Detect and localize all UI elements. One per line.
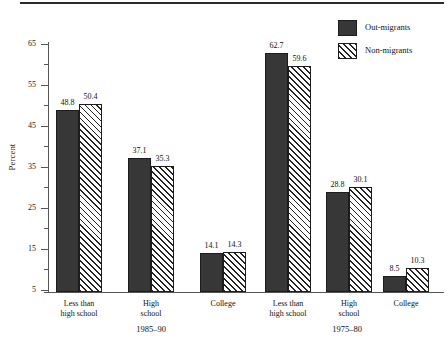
bar [128, 158, 151, 292]
bar-value-label: 50.4 [73, 93, 108, 101]
y-tick-major [41, 167, 48, 168]
chart-figure: 5152535455565 Percent 48.850.437.135.314… [0, 0, 448, 355]
y-tick-major [41, 290, 48, 291]
bar [265, 53, 288, 292]
bar [288, 66, 311, 292]
bar-value-label: 35.3 [145, 155, 180, 163]
category-label: High school [116, 299, 186, 318]
y-tick-label: 65 [10, 40, 36, 48]
category-label: Less than high school [44, 299, 114, 318]
y-tick-major [41, 249, 48, 250]
category-label: Less than high school [253, 299, 323, 318]
legend-item-out-migrants: Out-migrants [338, 18, 446, 41]
bar [79, 104, 102, 292]
legend-label-out-migrants: Out-migrants [365, 22, 410, 32]
y-tick-label: 25 [10, 204, 36, 212]
bar-value-label: 8.5 [377, 265, 412, 273]
y-tick-minor [44, 187, 48, 188]
bar [200, 253, 223, 292]
bar [56, 110, 79, 292]
bar [349, 187, 372, 292]
y-tick-minor [44, 105, 48, 106]
legend-swatch-solid-icon [338, 20, 357, 36]
y-tick-label: 55 [10, 81, 36, 89]
top-horizontal-rule [20, 2, 444, 4]
y-tick-major [41, 126, 48, 127]
y-tick-label: 5 [10, 286, 36, 294]
y-tick-major [41, 208, 48, 209]
bar [151, 166, 174, 292]
y-tick-minor [44, 228, 48, 229]
y-tick-label: 15 [10, 245, 36, 253]
bar [383, 276, 406, 292]
y-tick-minor [44, 146, 48, 147]
chart-legend: Out-migrants Non-migrants [338, 18, 446, 64]
y-axis-title: Percent [7, 127, 17, 187]
bar [223, 252, 246, 292]
y-tick-minor [44, 269, 48, 270]
y-axis-line [48, 42, 49, 292]
x-axis-baseline [44, 292, 444, 293]
y-tick-major [41, 44, 48, 45]
y-tick-minor [44, 64, 48, 65]
legend-item-non-migrants: Non-migrants [338, 41, 446, 64]
bar-value-label: 14.3 [217, 241, 252, 249]
bar-value-label: 62.7 [259, 42, 294, 50]
bar-value-label: 59.6 [282, 55, 317, 63]
legend-swatch-hatch-icon [338, 43, 357, 59]
bar-value-label: 30.1 [343, 176, 378, 184]
period-group-label: 1985–90 [106, 325, 196, 334]
period-group-label: 1975–80 [302, 325, 392, 334]
legend-label-non-migrants: Non-migrants [365, 45, 412, 55]
bar [326, 192, 349, 292]
category-label: College [188, 299, 258, 309]
y-tick-major [41, 85, 48, 86]
bar-value-label: 10.3 [400, 257, 435, 265]
category-label: College [371, 299, 441, 309]
